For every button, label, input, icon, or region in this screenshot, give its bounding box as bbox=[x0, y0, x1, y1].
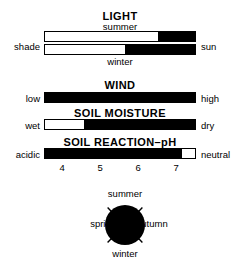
soil-reaction-left-label: acidic bbox=[0, 149, 40, 160]
light-winter-bar-fill bbox=[125, 45, 196, 54]
soil-moisture-right-label: dry bbox=[201, 120, 249, 131]
light-winter-label: winter bbox=[44, 56, 196, 67]
wind-bar bbox=[44, 92, 196, 103]
soil-reaction-bar-fill bbox=[45, 149, 182, 158]
soil-reaction-bar bbox=[44, 148, 196, 159]
soil-moisture-bar bbox=[44, 119, 196, 130]
ph-tick-label: 4 bbox=[52, 162, 72, 173]
ph-tick-label: 5 bbox=[90, 162, 110, 173]
soil-moisture-bar-fill bbox=[84, 120, 195, 129]
light-summer-bar bbox=[44, 31, 196, 42]
wind-section-title: WIND bbox=[44, 79, 196, 91]
season-dial: spring autumn summer winter bbox=[60, 188, 190, 260]
ph-axis-ticks: 4567 bbox=[44, 162, 196, 174]
soil-moisture-section-title: SOIL MOISTURE bbox=[44, 107, 196, 119]
soil-reaction-right-label: neutral bbox=[201, 149, 249, 160]
ph-tick-label: 7 bbox=[166, 162, 186, 173]
ph-tick-label: 6 bbox=[128, 162, 148, 173]
light-left-label: shade bbox=[0, 41, 40, 52]
wind-bar-fill bbox=[45, 93, 195, 102]
wind-right-label: high bbox=[201, 93, 249, 104]
figure-canvas: LIGHT summer shade sun winter WIND low h… bbox=[0, 0, 249, 266]
wind-left-label: low bbox=[0, 93, 40, 104]
season-dial-circle bbox=[100, 200, 150, 250]
season-dial-summer-label: summer bbox=[93, 188, 157, 199]
soil-moisture-left-label: wet bbox=[0, 120, 40, 131]
light-right-label: sun bbox=[201, 41, 249, 52]
soil-reaction-section-title: SOIL REACTION–pH bbox=[44, 136, 196, 148]
light-winter-bar bbox=[44, 44, 196, 55]
light-summer-bar-fill bbox=[158, 32, 196, 41]
